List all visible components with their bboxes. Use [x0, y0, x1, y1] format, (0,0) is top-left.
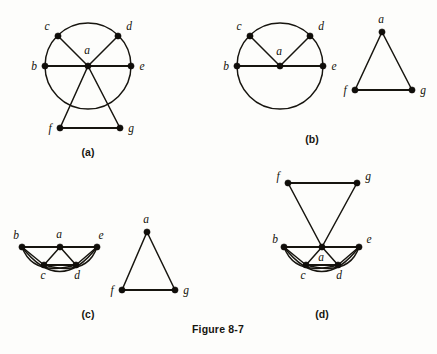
panel-d-vertex-g — [354, 180, 360, 186]
figure-svg: a b c d e f g (a) a b c d e — [0, 0, 437, 354]
panel-c-edge-a-d — [60, 247, 76, 265]
panel-a-label-d: d — [126, 20, 132, 32]
panel-b-vertex-b — [234, 63, 240, 69]
panel-b-vertex-e — [320, 63, 326, 69]
panel-a-label-g: g — [128, 122, 134, 135]
panel-a-label-e: e — [139, 60, 144, 72]
panel-a-vertex-d — [115, 33, 121, 39]
panel-b-label-f: f — [343, 84, 348, 97]
panel-a-label-f: f — [48, 122, 53, 135]
panel-d-label-b: b — [272, 233, 278, 245]
panel-a-label-a: a — [84, 44, 90, 56]
panel-d-edge-a-d — [322, 247, 338, 265]
panel-c-label-f: f — [110, 284, 115, 297]
panel-a: a b c d e f g (a) — [31, 20, 144, 158]
panel-d-vertex-f — [285, 180, 291, 186]
panel-b-vertex-a2 — [379, 29, 385, 35]
panel-a-vertex-e — [128, 63, 134, 69]
panel-b-edge-a-d — [280, 36, 310, 66]
panel-d-vertex-d — [335, 262, 341, 268]
panel-c-vertex-d — [73, 262, 79, 268]
panel-a-label-c: c — [44, 20, 49, 32]
panel-d-label-f: f — [276, 170, 281, 183]
panel-c-label-c: c — [40, 269, 45, 281]
panel-d-edge-f-a — [288, 183, 322, 247]
panel-d-vertex-c — [303, 262, 309, 268]
panel-d: f g b a e c d (d) — [272, 170, 371, 320]
panel-d-label-g: g — [365, 170, 371, 183]
panel-a-vertex-g — [117, 125, 123, 131]
panel-b-label-e: e — [331, 60, 336, 72]
panel-d-vertex-e — [356, 244, 362, 250]
panel-b-label-c: c — [236, 20, 241, 32]
panel-a-subcaption: (a) — [82, 146, 95, 158]
panel-d-label-d: d — [336, 269, 342, 281]
panel-b-label-g: g — [420, 84, 426, 97]
panel-c-vertex-b — [19, 244, 25, 250]
panel-c-edge-c-a — [44, 247, 60, 265]
panel-c-vertex-c — [41, 262, 47, 268]
panel-c-edge-a-g — [147, 232, 175, 290]
panel-c-label-e: e — [98, 229, 103, 241]
panel-a-vertex-a — [85, 63, 91, 69]
panel-b-vertex-g — [409, 87, 415, 93]
panel-a-vertex-c — [55, 33, 61, 39]
panel-b-vertex-d — [307, 33, 313, 39]
panel-b-label-d: d — [318, 20, 324, 32]
panel-d-vertex-b — [281, 244, 287, 250]
panel-a-edge-a-f — [60, 66, 88, 128]
panel-d-subcaption: (d) — [315, 308, 328, 320]
panel-c-vertex-a — [57, 244, 63, 250]
panel-c-vertex-a2 — [144, 229, 150, 235]
panel-b-edge-a-g — [382, 32, 412, 90]
panel-c-edge-a-f — [122, 232, 147, 290]
panel-b-label-a: a — [276, 45, 282, 57]
panel-d-label-e: e — [366, 233, 371, 245]
panel-c-label-d: d — [74, 269, 80, 281]
panel-b-edge-a-f — [355, 32, 382, 90]
panel-c-vertex-e — [94, 244, 100, 250]
panel-c-vertex-g — [172, 287, 178, 293]
panel-a-vertex-b — [42, 63, 48, 69]
panel-a-edge-a-g — [88, 66, 120, 128]
panel-b-label-a2: a — [378, 13, 384, 25]
panel-d-vertex-a — [319, 244, 325, 250]
panel-c-vertex-f — [119, 287, 125, 293]
panel-c-subcaption: (c) — [82, 308, 95, 320]
panel-b-label-b: b — [223, 60, 229, 72]
panel-b-subcaption: (b) — [305, 133, 318, 145]
panel-b: a b c d e a f g (b) — [223, 13, 426, 145]
figure-caption: Figure 8-7 — [192, 323, 244, 335]
panel-d-edge-g-a — [322, 183, 357, 247]
panel-a-label-b: b — [31, 60, 37, 72]
panel-a-vertex-f — [57, 125, 63, 131]
panel-c-label-b: b — [13, 229, 19, 241]
panel-b-vertex-f — [352, 87, 358, 93]
panel-b-vertex-c — [247, 33, 253, 39]
panel-c-label-a: a — [56, 228, 62, 240]
panel-c: b a e c d a f g (c) — [13, 213, 189, 320]
panel-d-label-a: a — [318, 251, 324, 263]
panel-b-vertex-a — [277, 63, 283, 69]
panel-c-label-a2: a — [143, 213, 149, 225]
figure-sheet: a b c d e f g (a) a b c d e — [0, 0, 437, 354]
panel-c-label-g: g — [183, 284, 189, 297]
panel-a-edge-a-d — [88, 36, 118, 66]
panel-d-label-c: c — [300, 269, 305, 281]
